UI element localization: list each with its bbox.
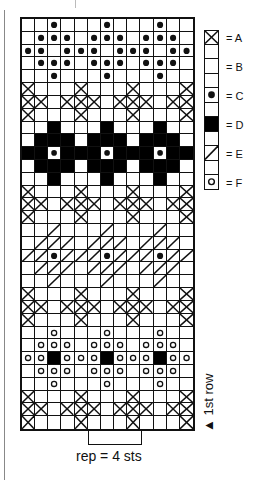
- chart-cell-x-box-icon: [180, 288, 193, 301]
- chart-cell-blank-cell: [154, 45, 167, 58]
- chart-cell-blank-cell: [140, 391, 153, 404]
- chart-cell-blank-cell: [127, 224, 140, 237]
- chart-cell-diagonal-slash-icon: [140, 237, 153, 250]
- chart-cell-blank-cell: [140, 224, 153, 237]
- chart-cell-blank-cell: [127, 365, 140, 378]
- chart-cell-x-box-icon: [180, 403, 193, 416]
- chart-cell-diagonal-slash-icon: [140, 262, 153, 275]
- chart-cell-blank-cell: [127, 160, 140, 173]
- chart-cell-x-box-icon: [88, 198, 101, 211]
- chart-cell-x-box-icon: [180, 83, 193, 96]
- chart-cell-filled-dot-icon: [75, 45, 88, 58]
- chart-cell-filled-dot-icon: [167, 32, 180, 45]
- chart-cell-blank-cell: [101, 109, 114, 122]
- chart-cell-filled-dot-icon: [48, 57, 61, 70]
- chart-cell-blank-cell: [48, 45, 61, 58]
- chart-cell-blank-cell: [22, 262, 35, 275]
- chart-cell-blank-cell: [180, 262, 193, 275]
- chart-cell-blank-cell: [154, 198, 167, 211]
- chart-cell-solid-black-cell: [88, 160, 101, 173]
- chart-cell-blank-cell: [167, 186, 180, 199]
- chart-cell-filled-dot-icon: [48, 147, 61, 160]
- chart-cell-x-box-icon: [140, 96, 153, 109]
- chart-cell-x-box-icon: [75, 96, 88, 109]
- chart-cell-x-box-icon: [22, 211, 35, 224]
- chart-cell-blank-cell: [88, 224, 101, 237]
- chart-cell-x-box-icon: [180, 416, 193, 429]
- chart-cell-filled-dot-icon: [167, 57, 180, 70]
- chart-cell-x-box-icon: [167, 403, 180, 416]
- chart-cell-blank-cell: [180, 122, 193, 135]
- chart-cell-diagonal-slash-icon: [167, 237, 180, 250]
- chart-cell-open-circle-icon: [75, 352, 88, 365]
- chart-cell-blank-cell: [127, 262, 140, 275]
- legend-spacer-cell: [204, 161, 219, 176]
- chart-cell-filled-dot-icon: [140, 45, 153, 58]
- chart-cell-diagonal-slash-icon: [167, 262, 180, 275]
- chart-cell-open-circle-icon: [61, 365, 74, 378]
- chart-cell-filled-dot-icon: [88, 32, 101, 45]
- chart-cell-blank-cell: [22, 224, 35, 237]
- chart-cell-blank-cell: [22, 57, 35, 70]
- chart-cell-blank-cell: [114, 173, 127, 186]
- chart-cell-solid-black-cell: [154, 134, 167, 147]
- chart-cell-blank-cell: [88, 70, 101, 83]
- chart-cell-blank-cell: [114, 19, 127, 32]
- chart-cell-open-circle-icon: [154, 327, 167, 340]
- chart-cell-blank-cell: [140, 314, 153, 327]
- chart-cell-filled-dot-icon: [154, 19, 167, 32]
- chart-cell-blank-cell: [167, 211, 180, 224]
- chart-cell-x-box-icon: [88, 301, 101, 314]
- chart-cell-x-box-icon: [180, 301, 193, 314]
- chart-cell-blank-cell: [180, 365, 193, 378]
- chart-cell-diagonal-slash-icon: [114, 262, 127, 275]
- chart-cell-open-circle-icon: [140, 365, 153, 378]
- chart-cell-open-circle-icon: [101, 378, 114, 391]
- chart-cell-diagonal-slash-icon: [180, 250, 193, 263]
- chart-cell-filled-dot-icon: [180, 45, 193, 58]
- chart-cell-blank-cell: [35, 378, 48, 391]
- chart-cell-diagonal-slash-icon: [75, 250, 88, 263]
- chart-cell-x-box-icon: [75, 198, 88, 211]
- chart-cell-solid-black-cell: [48, 173, 61, 186]
- chart-cell-x-box-icon: [167, 301, 180, 314]
- chart-cell-solid-black-cell: [101, 173, 114, 186]
- chart-cell-solid-black-cell: [140, 134, 153, 147]
- chart-cell-filled-dot-icon: [140, 57, 153, 70]
- chart-cell-diagonal-slash-icon: [140, 250, 153, 263]
- chart-cell-open-circle-icon: [140, 352, 153, 365]
- chart-cell-blank-cell: [48, 314, 61, 327]
- chart-cell-x-box-icon: [127, 416, 140, 429]
- chart-cell-open-circle-icon: [154, 365, 167, 378]
- chart-cell-blank-cell: [48, 403, 61, 416]
- chart-cell-blank-cell: [88, 122, 101, 135]
- chart-cell-blank-cell: [140, 19, 153, 32]
- chart-cell-filled-dot-icon: [167, 45, 180, 58]
- chart-cell-blank-cell: [114, 327, 127, 340]
- chart-cell-open-circle-icon: [154, 339, 167, 352]
- chart-cell-blank-cell: [167, 19, 180, 32]
- legend-spacer-cell: [204, 103, 219, 118]
- chart-cell-blank-cell: [127, 237, 140, 250]
- chart-cell-blank-cell: [127, 122, 140, 135]
- chart-cell-blank-cell: [61, 122, 74, 135]
- chart-cell-blank-cell: [35, 19, 48, 32]
- chart-cell-blank-cell: [114, 224, 127, 237]
- chart-cell-blank-cell: [35, 327, 48, 340]
- chart-cell-x-box-icon: [61, 403, 74, 416]
- chart-cell-blank-cell: [75, 57, 88, 70]
- chart-cell-filled-dot-icon: [154, 147, 167, 160]
- chart-cell-blank-cell: [180, 19, 193, 32]
- chart-cell-blank-cell: [101, 288, 114, 301]
- chart-cell-blank-cell: [154, 301, 167, 314]
- chart-cell-blank-cell: [75, 173, 88, 186]
- chart-cell-blank-cell: [48, 416, 61, 429]
- chart-cell-x-box-icon: [127, 301, 140, 314]
- chart-cell-blank-cell: [180, 378, 193, 391]
- chart-cell-filled-dot-icon: [154, 32, 167, 45]
- chart-cell-blank-cell: [167, 109, 180, 122]
- chart-cell-x-box-icon: [127, 198, 140, 211]
- chart-cell-open-circle-icon: [88, 365, 101, 378]
- chart-cell-x-box-icon: [114, 96, 127, 109]
- chart-cell-filled-dot-icon: [35, 45, 48, 58]
